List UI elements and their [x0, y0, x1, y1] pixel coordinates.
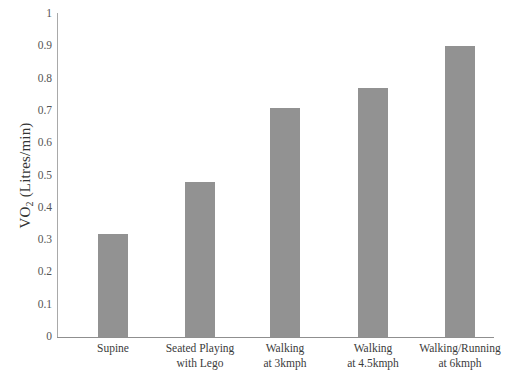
x-axis-category-label: Walking/Runningat 6kmph — [400, 341, 506, 371]
x-axis-label-line1: Walking/Running — [419, 342, 501, 354]
y-axis-tick-label: 0.2 — [26, 266, 52, 278]
bar — [445, 46, 475, 337]
x-axis-line — [57, 337, 494, 338]
y-axis-ticks: 10.90.80.70.60.50.40.30.20.10 — [22, 0, 52, 386]
y-axis-tick-label: 0.4 — [26, 202, 52, 214]
y-axis-tick-label: 0.3 — [26, 234, 52, 246]
y-axis-tick-label: 0 — [26, 331, 52, 343]
cropped-title-remnant — [355, 0, 475, 3]
x-axis-label-line1: Walking — [354, 342, 393, 354]
y-axis-tick-label: 0.1 — [26, 299, 52, 311]
x-axis-label-line1: Walking — [266, 342, 305, 354]
y-axis-tick-label: 1 — [26, 8, 52, 20]
y-axis-tick-label: 0.5 — [26, 170, 52, 182]
bars-container — [57, 14, 494, 337]
x-axis-labels: SupineSeated Playingwith LegoWalkingat 3… — [57, 341, 494, 386]
bar — [270, 108, 300, 337]
y-axis-tick-label: 0.8 — [26, 73, 52, 85]
bar — [98, 234, 128, 337]
y-axis-tick-label: 0.9 — [26, 40, 52, 52]
x-axis-label-line2: at 6kmph — [400, 356, 506, 371]
x-axis-label-line1: Supine — [97, 342, 129, 354]
bar — [185, 182, 215, 337]
bar — [358, 88, 388, 337]
y-axis-tick-label: 0.7 — [26, 105, 52, 117]
y-axis-tick-label: 0.6 — [26, 137, 52, 149]
